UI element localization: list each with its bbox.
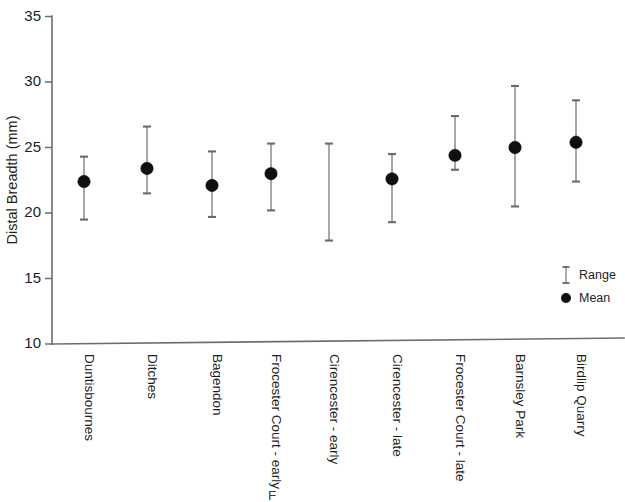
legend-item: Range — [563, 267, 616, 283]
chart-legend: RangeMean — [561, 267, 616, 305]
mean-marker — [570, 136, 582, 148]
data-point-group — [325, 144, 333, 241]
x-axis-category-label: Ditches — [145, 354, 160, 399]
y-tick-label: 35 — [24, 7, 41, 24]
chart-container: 101520253035 Distal Breadth (mm) Duntisb… — [0, 0, 625, 502]
y-tick-label: 10 — [24, 334, 41, 351]
x-axis-category-label: Birdlip Quarry — [574, 354, 589, 437]
x-axis-category-label: Barnsley Park — [513, 354, 528, 438]
y-axis-tick-labels: 101520253035 — [24, 7, 41, 352]
x-axis-category-label: Bagendon — [210, 354, 225, 416]
data-point-group — [265, 144, 277, 211]
scan-fragment-glyph: F — [268, 488, 276, 502]
x-axis-category-label: Duntisbournes — [82, 354, 97, 441]
legend-item: Mean — [561, 291, 610, 305]
data-point-group — [570, 100, 582, 181]
x-axis-category-label: Frocester Court - late — [453, 354, 468, 482]
y-axis-title: Distal Breadth (mm) — [4, 116, 20, 245]
data-series-group — [78, 86, 582, 241]
data-point-group — [449, 116, 461, 170]
mean-marker — [78, 175, 90, 187]
data-point-group — [141, 127, 153, 194]
x-axis-category-label: Cirencester - early — [327, 354, 342, 465]
data-point-group — [509, 86, 521, 207]
mean-marker — [141, 162, 153, 174]
mean-marker — [509, 141, 521, 153]
category-labels-group: DuntisbournesDitchesBagendonFrocester Co… — [82, 354, 589, 489]
y-tick-label: 30 — [24, 72, 41, 89]
y-tick-label: 15 — [24, 269, 41, 286]
data-point-group — [386, 154, 398, 222]
y-axis-ticks — [45, 17, 52, 345]
mean-marker — [449, 149, 461, 161]
x-axis-category-label: Cirencester - late — [390, 354, 405, 457]
legend-item-label: Range — [579, 268, 616, 282]
x-axis-category-label: Frocester Court - early — [269, 354, 284, 489]
data-point-group — [78, 157, 90, 220]
legend-item-label: Mean — [579, 291, 610, 305]
y-tick-label: 25 — [24, 138, 41, 155]
x-axis-line — [52, 338, 624, 344]
y-tick-label: 20 — [24, 203, 41, 220]
data-point-group — [206, 151, 218, 217]
mean-marker — [386, 173, 398, 185]
mean-marker — [206, 179, 218, 191]
legend-mean-icon — [561, 293, 571, 303]
distal-breadth-range-chart: 101520253035 Distal Breadth (mm) Duntisb… — [0, 0, 625, 502]
mean-marker — [265, 168, 277, 180]
